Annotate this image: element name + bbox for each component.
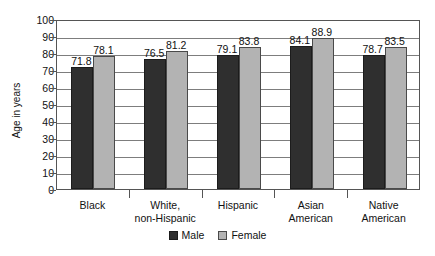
bar-male[interactable] (290, 46, 312, 189)
bar-value-label: 83.5 (380, 36, 410, 47)
x-category-label-line1: White, (150, 199, 180, 211)
x-tick-mark (202, 190, 203, 198)
x-tick-mark (347, 190, 348, 198)
x-category-label-line1: Native (369, 199, 399, 211)
legend-swatch-male-icon (169, 231, 178, 240)
legend-label-female: Female (231, 229, 266, 241)
x-tick-mark (274, 190, 275, 198)
bar-female[interactable] (312, 38, 334, 189)
bar-female[interactable] (239, 47, 261, 189)
x-category-label: Hispanic (202, 199, 275, 212)
x-category-label-line2: non-Hispanic (129, 212, 202, 225)
legend-swatch-female-icon (218, 231, 227, 240)
chart-legend: Male Female (0, 229, 435, 241)
bar-male[interactable] (144, 59, 166, 189)
bar-value-label: 81.2 (161, 40, 191, 51)
x-category-label-line1: Asian (298, 199, 324, 211)
bar-female[interactable] (385, 47, 407, 189)
bar-male[interactable] (217, 55, 239, 189)
x-category-label-line1: Black (80, 199, 106, 211)
legend-item-male[interactable]: Male (169, 229, 205, 241)
x-category-label: Black (56, 199, 129, 212)
bar-value-label: 71.8 (66, 56, 96, 67)
bar-male[interactable] (71, 67, 93, 189)
y-axis-title: Age in years (11, 51, 22, 171)
x-category-label: AsianAmerican (274, 199, 347, 224)
bar-male[interactable] (363, 55, 385, 189)
bar-value-label: 88.9 (307, 27, 337, 38)
legend-item-female[interactable]: Female (218, 229, 266, 241)
x-category-label-line1: Hispanic (218, 199, 258, 211)
legend-label-male: Male (182, 229, 205, 241)
bar-value-label: 83.8 (234, 36, 264, 47)
bar-female[interactable] (166, 51, 188, 189)
bar-value-label: 78.1 (88, 45, 118, 56)
x-category-label-line2: American (347, 212, 420, 225)
y-tick-mark (50, 190, 56, 191)
x-category-label: NativeAmerican (347, 199, 420, 224)
x-tick-mark (129, 190, 130, 198)
x-category-label-line2: American (274, 212, 347, 225)
bar-chart: Age in years 1009080706050403020100 71.8… (0, 0, 435, 256)
bar-female[interactable] (93, 56, 115, 189)
x-category-label: White,non-Hispanic (129, 199, 202, 224)
